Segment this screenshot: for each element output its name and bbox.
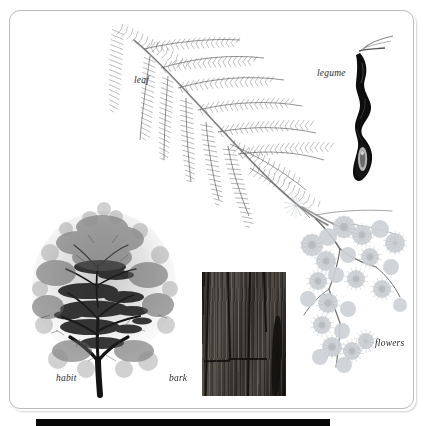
legume-illustration — [345, 33, 397, 188]
bottom-black-bar — [36, 419, 330, 426]
label-flowers: flowers — [375, 338, 404, 348]
label-bark: bark — [169, 373, 187, 383]
botanical-plate: leaf legume flowers habit bark — [0, 0, 423, 426]
leaf-illustration — [118, 28, 333, 228]
bark-photo-panel — [202, 272, 286, 396]
label-leaf: leaf — [134, 75, 149, 85]
label-habit: habit — [56, 373, 77, 383]
label-legume: legume — [317, 68, 346, 78]
habit-illustration — [28, 203, 180, 395]
